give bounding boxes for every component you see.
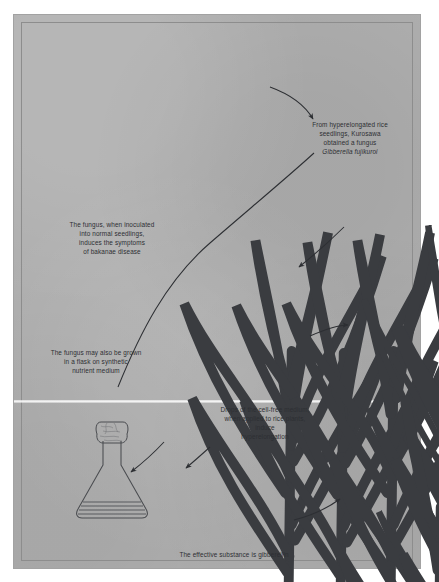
arrow-medium-to-flask [131,442,164,472]
caption-culture-line-1: in a flask on synthetic [22,357,170,366]
plate-frame [21,22,413,561]
caption-kurosawa-line-0: From hyperelongated rice [295,120,405,129]
caption-application-line-1: when applied to rice plants, [191,414,339,423]
caption-inoculation: The fungus, when inoculated into normal … [42,220,182,256]
row-top-plants [184,216,439,582]
caption-application-line-2: induce [191,423,339,432]
caption-inoculation-line-1: into normal seedlings, [42,229,182,238]
arrow-caption-to-bottom-row [186,447,210,468]
caption-kurosawa-line-1: seedlings, Kurosawa [295,129,405,138]
caption-culture-line-0: The fungus may also be grown [22,348,170,357]
caption-kurosawa: From hyperelongated rice seedlings, Kuro… [295,120,405,156]
arrow-to-kurosawa-caption [270,87,313,119]
row-bottom-plants [302,577,439,582]
arrow-into-middle-row [299,227,344,267]
caption-culture-line-2: nutrient medium [22,366,170,375]
caption-culture: The fungus may also be grown in a flask … [22,348,170,375]
erlenmeyer-flask [77,422,148,518]
arrow-middle-to-tall [310,325,348,336]
caption-conclusion: The effective substance is gibberellin [134,550,334,559]
figure-page: From hyperelongated rice seedlings, Kuro… [14,15,420,568]
caption-kurosawa-species: Gibberella fujikuroi [322,148,377,155]
caption-inoculation-line-0: The fungus, when inoculated [42,220,182,229]
caption-kurosawa-line-2: obtained a fungus [295,138,405,147]
caption-application-line-0: Drops of the cell-free medium, [191,405,339,414]
caption-application: Drops of the cell-free medium, when appl… [191,405,339,441]
row-middle-plants [333,383,439,582]
caption-conclusion-text: The effective substance is gibberellin [134,550,334,559]
arrow-bottom-to-tall [294,499,340,520]
figure-artwork [14,15,420,568]
caption-inoculation-line-3: of bakanae disease [42,247,182,256]
scan-fold-line [14,400,420,403]
caption-inoculation-line-2: induces the symptoms [42,238,182,247]
caption-application-line-3: hyperelongation [191,432,339,441]
